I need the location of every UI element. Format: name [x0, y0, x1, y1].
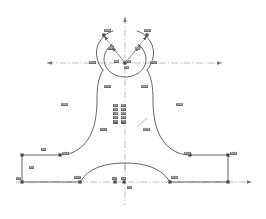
label-fork-left-outer: R24 — [104, 29, 111, 32]
label-left-region: R3a — [61, 103, 68, 106]
label-hub-center-right: R5 — [126, 60, 131, 63]
dim-right-4: E5 — [121, 120, 126, 123]
label-center-node-right: C2 — [121, 177, 126, 180]
outline-right — [147, 70, 228, 182]
node-base-left-top — [20, 153, 23, 156]
label-fork-right-inner: R8 — [135, 47, 140, 50]
label-fork-left-side: R11 — [89, 61, 96, 64]
label-base-left-top-right: R21 — [62, 152, 69, 155]
label-center-node-left: C1 — [112, 177, 117, 180]
label-fork-right-outer: R25 — [144, 29, 151, 32]
dimension-stack: D1 D2 D3 D4 D5 E1 E2 E3 E4 E5 — [113, 104, 126, 124]
drawing-svg — [0, 0, 266, 219]
label-base-left-corner: R0 — [16, 177, 21, 180]
centerline-group — [16, 17, 252, 205]
node-base-left-corner — [20, 180, 23, 183]
label-fork-right-side: R12 — [150, 61, 157, 64]
cad-drawing-canvas: R24 R25 R9 R8 R11 R12 R4 R5 R6 R15 R16 R… — [0, 0, 266, 219]
node-arch-right-foot — [168, 180, 171, 183]
dim-left-4: D5 — [113, 120, 118, 123]
label-base-right-inner: R20 — [171, 176, 178, 179]
label-base-left-inner: R19 — [74, 176, 81, 179]
label-waist-left-top: R15 — [104, 85, 111, 88]
node-center-right — [122, 180, 125, 183]
label-arch-peak: R7 — [127, 186, 132, 189]
label-base-right-corner: R23 — [230, 152, 237, 155]
label-waist-right-bottom: R18 — [143, 128, 150, 131]
node-center-left — [113, 180, 116, 183]
node-arch-left-foot — [78, 180, 81, 183]
dimension-column-left: D1 D2 D3 D4 D5 — [113, 104, 118, 124]
label-fork-left-inner: R9 — [108, 47, 113, 50]
label-base-right-top: R22 — [184, 152, 191, 155]
node-fork-right-tip — [145, 33, 148, 36]
label-right-region: R3b — [176, 103, 183, 106]
label-waist-right-top: R16 — [141, 85, 148, 88]
label-hub-below: R6 — [124, 66, 129, 69]
dimstack-leader — [137, 118, 147, 127]
label-base-left-vertical: R2 — [29, 166, 34, 169]
node-fork-left-tip — [102, 33, 105, 36]
label-waist-left-bottom: R17 — [100, 128, 107, 131]
dimension-leaders — [125, 118, 147, 170]
dimension-column-right: E1 E2 E3 E4 E5 — [121, 104, 126, 124]
label-hub-center-left: R4 — [114, 60, 119, 63]
label-base-left-top: R1 — [41, 148, 46, 151]
node-base-right-corner — [226, 180, 229, 183]
